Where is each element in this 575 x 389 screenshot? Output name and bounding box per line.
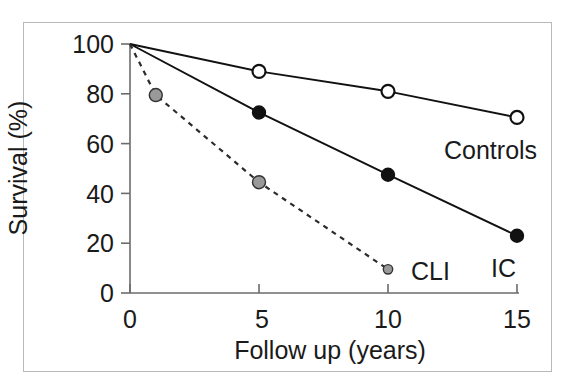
series-label-ic: IC <box>491 254 516 283</box>
data-point-ic-5 <box>253 106 266 119</box>
data-point-controls-5 <box>253 65 266 78</box>
survival-curve-figure: 100 80 60 40 20 0 0 5 10 15 Survival (%)… <box>0 0 575 389</box>
data-point-cli-5 <box>253 176 266 189</box>
data-point-controls-15 <box>511 111 524 124</box>
data-point-cli-1 <box>149 89 162 102</box>
series-controls <box>130 44 524 124</box>
series-label-cli: CLI <box>411 257 450 286</box>
xtick-label-10: 10 <box>374 305 402 334</box>
data-point-cli-10 <box>383 265 392 274</box>
ytick-label-20: 20 <box>48 229 114 258</box>
x-axis-ticks <box>130 284 517 293</box>
data-point-ic-15 <box>511 229 524 242</box>
series-label-controls: Controls <box>444 136 537 165</box>
ytick-label-0: 0 <box>48 279 114 308</box>
xtick-label-15: 15 <box>503 305 531 334</box>
ytick-label-100: 100 <box>48 30 114 59</box>
data-point-ic-10 <box>382 168 395 181</box>
ytick-label-40: 40 <box>48 180 114 209</box>
data-point-controls-10 <box>382 85 395 98</box>
y-axis-ticks <box>121 44 130 293</box>
xtick-label-5: 5 <box>255 305 269 334</box>
xtick-label-0: 0 <box>123 305 137 334</box>
series-line-controls <box>130 44 517 117</box>
ytick-label-60: 60 <box>48 130 114 159</box>
ytick-label-80: 80 <box>48 80 114 109</box>
x-axis-title: Follow up (years) <box>234 336 426 365</box>
y-axis-title: Survival (%) <box>4 101 33 236</box>
